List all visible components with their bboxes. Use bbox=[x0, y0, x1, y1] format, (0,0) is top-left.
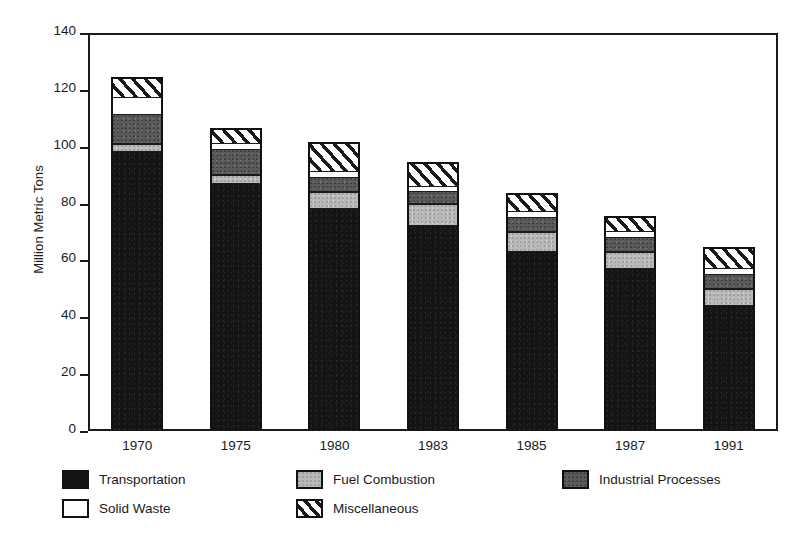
legend-swatch-icon bbox=[562, 470, 589, 489]
legend-label: Fuel Combustion bbox=[333, 472, 435, 487]
bar-segment-transportation[interactable] bbox=[212, 184, 260, 431]
bar-segment-industrial-processes[interactable] bbox=[409, 192, 457, 203]
legend-item[interactable]: Fuel Combustion bbox=[296, 466, 435, 492]
legend-label: Solid Waste bbox=[99, 501, 171, 516]
bar-segment-miscellaneous[interactable] bbox=[409, 164, 457, 187]
x-axis-label: 1970 bbox=[92, 438, 182, 453]
y-axis-tick: 80 bbox=[30, 204, 88, 205]
stacked-bar[interactable] bbox=[703, 247, 755, 431]
bar-segment-miscellaneous[interactable] bbox=[508, 195, 556, 212]
bar-segment-transportation[interactable] bbox=[310, 209, 358, 431]
bar-segment-transportation[interactable] bbox=[508, 252, 556, 431]
y-axis-title: Million Metric Tons bbox=[31, 120, 46, 320]
legend-label: Industrial Processes bbox=[599, 472, 721, 487]
y-axis-tick-label: 140 bbox=[53, 23, 76, 38]
x-axis-label: 1975 bbox=[191, 438, 281, 453]
bar-segment-fuel-combustion[interactable] bbox=[212, 175, 260, 184]
legend-label: Transportation bbox=[99, 472, 186, 487]
bar-segment-fuel-combustion[interactable] bbox=[606, 252, 654, 269]
y-axis-tick-label: 40 bbox=[61, 307, 76, 322]
legend-swatch-icon bbox=[296, 470, 323, 489]
y-axis-tick-label: 100 bbox=[53, 137, 76, 152]
legend-swatch-icon bbox=[62, 499, 89, 518]
y-axis-tick: 20 bbox=[30, 374, 88, 375]
bar-segment-transportation[interactable] bbox=[606, 269, 654, 431]
stacked-bar[interactable] bbox=[604, 216, 656, 431]
y-axis-tick-label: 60 bbox=[61, 250, 76, 265]
stacked-bar-chart: Million Metric Tons 020406080100120140 1… bbox=[0, 0, 808, 536]
y-axis-tick-label: 80 bbox=[61, 194, 76, 209]
y-axis-tick-mark bbox=[80, 374, 88, 376]
stacked-bar[interactable] bbox=[506, 193, 558, 431]
bar-segment-transportation[interactable] bbox=[113, 152, 161, 431]
stacked-bar[interactable] bbox=[407, 162, 459, 431]
bar-segment-industrial-processes[interactable] bbox=[310, 178, 358, 192]
bar-segment-miscellaneous[interactable] bbox=[212, 130, 260, 144]
y-axis-tick-mark bbox=[80, 204, 88, 206]
bar-segment-miscellaneous[interactable] bbox=[310, 144, 358, 172]
legend-row: TransportationFuel CombustionIndustrial … bbox=[62, 466, 792, 495]
bar-segment-fuel-combustion[interactable] bbox=[409, 204, 457, 227]
bar-segment-industrial-processes[interactable] bbox=[705, 275, 753, 289]
bar-segment-miscellaneous[interactable] bbox=[705, 249, 753, 269]
y-axis-tick-mark bbox=[80, 147, 88, 149]
bars-layer bbox=[88, 33, 778, 431]
bar-segment-miscellaneous[interactable] bbox=[113, 79, 161, 99]
x-axis-label: 1985 bbox=[487, 438, 577, 453]
y-axis-tick: 120 bbox=[30, 90, 88, 91]
y-axis-tick: 100 bbox=[30, 147, 88, 148]
bar-segment-solid-waste[interactable] bbox=[113, 98, 161, 115]
bar-segment-fuel-combustion[interactable] bbox=[310, 192, 358, 209]
bar-segment-transportation[interactable] bbox=[409, 226, 457, 431]
y-axis-tick: 0 bbox=[30, 431, 88, 432]
y-axis-tick: 40 bbox=[30, 317, 88, 318]
legend-swatch-icon bbox=[62, 470, 89, 489]
chart-legend: TransportationFuel CombustionIndustrial … bbox=[62, 466, 792, 524]
bar-segment-industrial-processes[interactable] bbox=[113, 115, 161, 143]
x-axis-label: 1991 bbox=[684, 438, 774, 453]
stacked-bar[interactable] bbox=[210, 128, 262, 431]
legend-item[interactable]: Transportation bbox=[62, 466, 186, 492]
x-axis-label: 1980 bbox=[289, 438, 379, 453]
bar-segment-industrial-processes[interactable] bbox=[606, 238, 654, 252]
bar-segment-fuel-combustion[interactable] bbox=[705, 289, 753, 306]
stacked-bar[interactable] bbox=[111, 77, 163, 431]
legend-item[interactable]: Industrial Processes bbox=[562, 466, 721, 492]
legend-item[interactable]: Miscellaneous bbox=[296, 495, 419, 521]
bar-segment-industrial-processes[interactable] bbox=[508, 218, 556, 232]
legend-item[interactable]: Solid Waste bbox=[62, 495, 171, 521]
y-axis-tick-label: 0 bbox=[68, 421, 76, 436]
y-axis-tick-mark bbox=[80, 317, 88, 319]
y-axis-tick-mark bbox=[80, 90, 88, 92]
bar-segment-transportation[interactable] bbox=[705, 306, 753, 431]
legend-row: Solid WasteMiscellaneous bbox=[62, 495, 792, 524]
y-axis-tick-mark bbox=[80, 260, 88, 262]
y-axis-tick: 140 bbox=[30, 33, 88, 34]
bar-segment-fuel-combustion[interactable] bbox=[113, 144, 161, 153]
bar-segment-industrial-processes[interactable] bbox=[212, 150, 260, 176]
y-axis-tick-mark bbox=[80, 431, 88, 433]
bar-segment-fuel-combustion[interactable] bbox=[508, 232, 556, 252]
x-axis-label: 1983 bbox=[388, 438, 478, 453]
x-axis-label: 1987 bbox=[585, 438, 675, 453]
legend-swatch-icon bbox=[296, 499, 323, 518]
y-axis-tick-mark bbox=[80, 33, 88, 35]
y-axis-tick-label: 20 bbox=[61, 364, 76, 379]
y-axis-tick-label: 120 bbox=[53, 80, 76, 95]
legend-label: Miscellaneous bbox=[333, 501, 419, 516]
y-axis-tick: 60 bbox=[30, 260, 88, 261]
stacked-bar[interactable] bbox=[308, 142, 360, 431]
bar-segment-miscellaneous[interactable] bbox=[606, 218, 654, 232]
